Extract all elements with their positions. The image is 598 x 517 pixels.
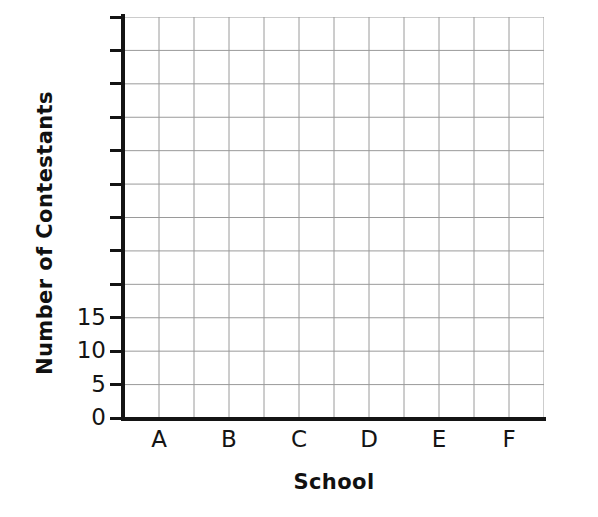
y-axis-tick-label: 15 xyxy=(62,306,106,329)
y-axis-tick-label: 10 xyxy=(62,339,106,362)
y-axis-tick-label: 0 xyxy=(62,406,106,429)
y-axis-tick xyxy=(110,383,125,386)
y-axis-tick xyxy=(110,283,125,286)
x-axis-tick-label: B xyxy=(209,428,249,451)
y-axis-tick-label: 5 xyxy=(62,373,106,396)
y-axis-tick xyxy=(110,149,125,152)
bar-chart-template: Number of Contestants 051015 ABCDEF Scho… xyxy=(0,0,598,517)
y-axis-tick xyxy=(110,350,125,353)
x-axis-line xyxy=(121,417,546,421)
y-axis-tick xyxy=(110,316,125,319)
y-axis-tick xyxy=(110,417,125,420)
y-axis-tick xyxy=(110,216,125,219)
y-axis-tick xyxy=(110,82,125,85)
y-axis-tick xyxy=(110,249,125,252)
x-axis-title: School xyxy=(124,470,544,494)
y-axis-tick xyxy=(110,16,125,19)
y-axis-tick xyxy=(110,116,125,119)
y-axis-tick xyxy=(110,49,125,52)
x-axis-tick-label: A xyxy=(139,428,179,451)
x-axis-tick-label: E xyxy=(419,428,459,451)
x-axis-tick-label: D xyxy=(349,428,389,451)
plot-area xyxy=(124,17,544,418)
y-axis-tick xyxy=(110,183,125,186)
x-axis-tick-label: C xyxy=(279,428,319,451)
grid-lines xyxy=(124,17,544,418)
x-axis-tick-label: F xyxy=(489,428,529,451)
